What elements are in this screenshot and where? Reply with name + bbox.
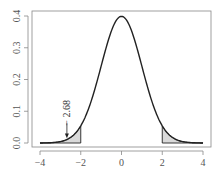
x-tick-label: 4 [201, 157, 206, 168]
y-tick-label: 0.2 [11, 73, 22, 86]
x-axis: −4−2024 [35, 151, 206, 168]
y-tick-label: 0.3 [11, 42, 22, 55]
annotations: − 2.68 [61, 100, 72, 138]
arrow-head-icon [65, 133, 69, 138]
plot-box [32, 11, 211, 147]
y-tick-label: 0.1 [11, 105, 22, 118]
y-tick-label: 0.0 [11, 137, 22, 150]
x-tick-label: 0 [119, 157, 124, 168]
y-axis: 0.00.10.20.30.4 [11, 10, 28, 150]
x-tick-label: −4 [35, 157, 46, 168]
x-tick-label: 2 [160, 157, 165, 168]
x-tick-label: −2 [75, 157, 86, 168]
y-tick-label: 0.4 [11, 10, 22, 23]
normal-density-chart: −4−2024 0.00.10.20.30.4 − 2.68 [0, 0, 218, 179]
annotation-label: − 2.68 [61, 100, 72, 126]
